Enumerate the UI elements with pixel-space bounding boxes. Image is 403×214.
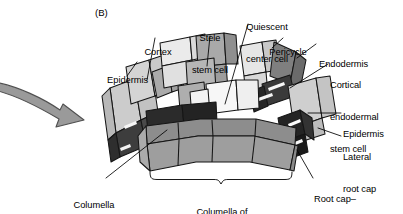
label-stele-stem-cell-line-0: Stele (183, 33, 237, 44)
panel-tag-b: (B) (95, 7, 108, 18)
label-columella-stem-cell: Columella stem cell (56, 179, 132, 214)
columella-of-root-cap-bracket (150, 172, 292, 184)
label-stele-stem-cell: Stele stem cell (183, 12, 237, 97)
label-pericycle: Pericycle (262, 26, 314, 79)
label-root-cap-epidermal-stem-cell-line-0: Root cap– (314, 194, 403, 205)
label-lateral-root-cap-line-0: Lateral (343, 152, 403, 163)
label-columella-of-root-cap: Columella of root cap (180, 186, 264, 214)
label-cortical-endodermal-stem-cell-line-0: Cortical (330, 80, 402, 91)
root-meristem-figure: (B) Epidermis Cortex Stele stem cell Qui… (0, 0, 403, 214)
label-stele-stem-cell-line-1: stem cell (183, 65, 237, 76)
label-columella-of-root-cap-line-0: Columella of (180, 207, 264, 214)
columella-of-root-cap (146, 119, 298, 171)
label-cortex: Cortex (138, 26, 178, 79)
leader-root-cap-epidermal (297, 150, 313, 178)
label-cortex-line-0: Cortex (138, 47, 178, 58)
label-pericycle-line-0: Pericycle (262, 47, 314, 58)
curved-pointer-arrow (0, 82, 84, 127)
label-columella-stem-cell-line-0: Columella (56, 200, 132, 211)
label-root-cap-epidermal-stem-cell: Root cap– epidermal stem cell (314, 173, 403, 214)
